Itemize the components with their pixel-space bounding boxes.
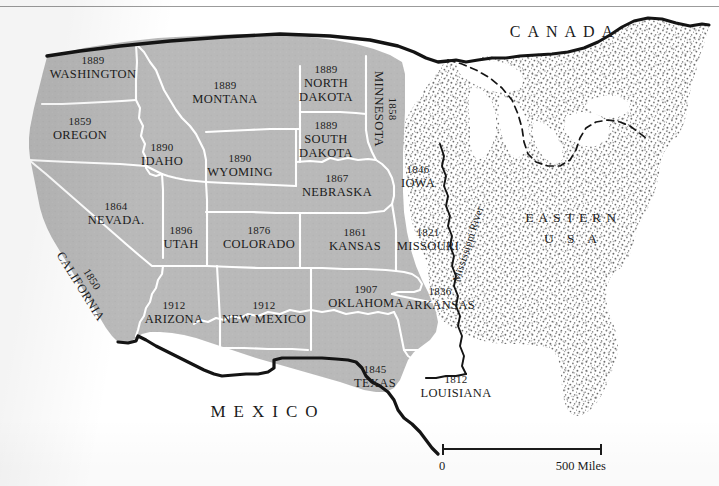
state-name: IDAHO bbox=[141, 154, 183, 169]
state-name: NEW MEXICO bbox=[222, 312, 306, 327]
state-name: LOUISIANA bbox=[420, 386, 491, 401]
scale-bar-line bbox=[442, 448, 602, 450]
region-label-eastern: EASTERNU S A bbox=[525, 208, 621, 250]
state-label-washington: 1889WASHINGTON bbox=[50, 54, 137, 81]
state-name: NORTH bbox=[299, 76, 353, 91]
state-year: 1912 bbox=[222, 299, 306, 312]
scale-tick-start bbox=[442, 444, 444, 455]
state-label-louisiana: 1812LOUISIANA bbox=[420, 373, 491, 400]
state-label-oregon: 1859OREGON bbox=[53, 115, 107, 142]
state-name: OREGON bbox=[53, 128, 107, 143]
state-name: WYOMING bbox=[207, 165, 273, 180]
state-label-nevada: 1864NEVADA. bbox=[88, 200, 145, 227]
state-label-idaho: 1890IDAHO bbox=[141, 141, 183, 168]
state-year: 1890 bbox=[207, 152, 273, 165]
region-label-mexico: MEXICO bbox=[210, 402, 325, 422]
state-label-arkansas: 1836ARKANSAS bbox=[405, 285, 475, 312]
scale-bar: 0 500 Miles bbox=[442, 444, 602, 478]
state-name-line2: DAKOTA bbox=[299, 90, 353, 105]
state-label-north-dakota: 1889NORTHDAKOTA bbox=[299, 63, 353, 105]
state-label-montana: 1889MONTANA bbox=[192, 79, 257, 106]
state-year: 1889 bbox=[192, 79, 257, 92]
state-name: NEVADA. bbox=[88, 213, 145, 228]
state-label-iowa: 1846IOWA bbox=[401, 163, 435, 190]
state-name: TEXAS bbox=[354, 376, 396, 391]
state-name: SOUTH bbox=[299, 132, 353, 147]
state-label-texas: 1845TEXAS bbox=[354, 363, 396, 390]
state-year: 1912 bbox=[145, 299, 204, 312]
state-year: 1812 bbox=[420, 373, 491, 386]
state-label-wyoming: 1890WYOMING bbox=[207, 152, 273, 179]
region-label-line2: U S A bbox=[525, 229, 621, 250]
region-label-line1: EASTERN bbox=[525, 208, 621, 229]
state-year: 1890 bbox=[141, 141, 183, 154]
statehood-map: 1889WASHINGTON1859OREGON1890IDAHO1889MON… bbox=[0, 0, 719, 486]
state-name: UTAH bbox=[163, 237, 198, 252]
state-name: ARIZONA bbox=[145, 312, 204, 327]
state-year: 1861 bbox=[329, 226, 381, 239]
state-year: 1896 bbox=[163, 224, 198, 237]
state-label-colorado: 1876COLORADO bbox=[223, 224, 295, 251]
state-name: MISSOURI bbox=[397, 239, 460, 254]
state-year: 1864 bbox=[88, 200, 145, 213]
state-label-minnesota: 1858MINNESOTA bbox=[371, 71, 398, 147]
state-name: MINNESOTA bbox=[371, 71, 386, 147]
state-year: 1889 bbox=[299, 119, 353, 132]
state-year: 1836 bbox=[405, 285, 475, 298]
state-label-utah: 1896UTAH bbox=[163, 224, 198, 251]
state-name: OKLAHOMA bbox=[328, 296, 404, 311]
state-name: MONTANA bbox=[192, 92, 257, 107]
state-label-oklahoma: 1907OKLAHOMA bbox=[328, 283, 404, 310]
state-name: KANSAS bbox=[329, 239, 381, 254]
scale-tick-end bbox=[600, 444, 602, 455]
state-year: 1846 bbox=[401, 163, 435, 176]
state-name: COLORADO bbox=[223, 237, 295, 252]
state-name-line2: DAKOTA bbox=[299, 146, 353, 161]
scale-label-start: 0 bbox=[439, 459, 445, 474]
state-label-kansas: 1861KANSAS bbox=[329, 226, 381, 253]
state-label-missouri: 1821MISSOURI bbox=[397, 226, 460, 253]
state-label-arizona: 1912ARIZONA bbox=[145, 299, 204, 326]
state-label-nebraska: 1867NEBRASKA bbox=[302, 172, 372, 199]
state-name: IOWA bbox=[401, 176, 435, 191]
state-name: ARKANSAS bbox=[405, 298, 475, 313]
state-year: 1858 bbox=[386, 71, 399, 147]
state-year: 1876 bbox=[223, 224, 295, 237]
state-year: 1889 bbox=[50, 54, 137, 67]
state-name: WASHINGTON bbox=[50, 67, 137, 82]
state-year: 1889 bbox=[299, 63, 353, 76]
state-year: 1845 bbox=[354, 363, 396, 376]
state-name: NEBRASKA bbox=[302, 185, 372, 200]
state-label-new-mexico: 1912NEW MEXICO bbox=[222, 299, 306, 326]
state-year: 1907 bbox=[328, 283, 404, 296]
scale-label-end: 500 Miles bbox=[556, 459, 606, 474]
region-label-canada: CANADA bbox=[510, 23, 620, 41]
state-year: 1867 bbox=[302, 172, 372, 185]
state-label-south-dakota: 1889SOUTHDAKOTA bbox=[299, 119, 353, 161]
state-year: 1859 bbox=[53, 115, 107, 128]
state-year: 1821 bbox=[397, 226, 460, 239]
